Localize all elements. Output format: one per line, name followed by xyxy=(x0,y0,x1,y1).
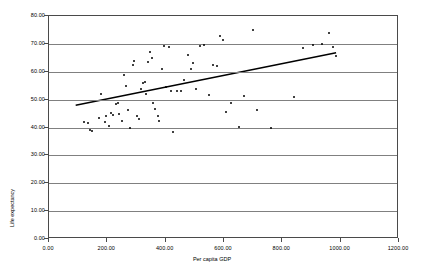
data-point xyxy=(270,127,272,129)
data-point xyxy=(112,114,114,116)
data-point xyxy=(121,120,123,122)
x-tick-label: 0.00 xyxy=(28,245,68,251)
y-tick-label: 60.00 xyxy=(1,68,45,74)
x-tick-label: 1200.00 xyxy=(378,245,418,251)
x-tick-mark xyxy=(223,238,224,242)
x-tick-label: 600.00 xyxy=(203,245,243,251)
x-tick-mark xyxy=(48,238,49,242)
chart-container: 0.0010.0020.0030.0040.0050.0060.0070.008… xyxy=(0,0,424,274)
data-point xyxy=(180,90,182,92)
x-tick-label: 800.00 xyxy=(261,245,301,251)
data-point xyxy=(168,46,170,48)
data-point xyxy=(302,47,304,49)
gridline xyxy=(49,72,397,73)
data-point xyxy=(321,43,323,45)
data-point xyxy=(83,121,85,123)
data-point xyxy=(203,44,205,46)
data-point xyxy=(163,45,165,47)
gridline xyxy=(49,183,397,184)
data-point xyxy=(117,102,119,104)
y-tick-mark xyxy=(44,15,48,16)
y-tick-label: 80.00 xyxy=(1,12,45,18)
gridline xyxy=(49,128,397,129)
data-point xyxy=(104,121,106,123)
data-point xyxy=(157,115,159,117)
data-point xyxy=(161,68,163,70)
plot-area xyxy=(48,15,398,238)
data-point xyxy=(170,90,172,92)
x-tick-label: 1000.00 xyxy=(320,245,360,251)
y-tick-mark xyxy=(44,99,48,100)
x-tick-label: 200.00 xyxy=(86,245,126,251)
data-point xyxy=(199,45,201,47)
x-axis-title: Per capita GDP xyxy=(0,256,424,263)
y-tick-mark xyxy=(44,71,48,72)
data-point xyxy=(222,39,224,41)
y-tick-mark xyxy=(44,154,48,155)
gridline xyxy=(49,211,397,212)
data-point xyxy=(129,127,131,129)
x-tick-label: 400.00 xyxy=(145,245,185,251)
data-point xyxy=(190,68,192,70)
y-tick-mark xyxy=(44,43,48,44)
data-point xyxy=(151,57,153,59)
y-tick-mark xyxy=(44,210,48,211)
y-tick-label: 70.00 xyxy=(1,40,45,46)
gridline xyxy=(49,44,397,45)
data-point xyxy=(136,115,138,117)
y-tick-label: 0.00 xyxy=(1,235,45,241)
x-tick-mark xyxy=(281,238,282,242)
y-tick-label: 10.00 xyxy=(1,207,45,213)
data-point xyxy=(172,131,174,133)
data-point xyxy=(138,118,140,120)
y-tick-mark xyxy=(44,182,48,183)
data-point xyxy=(208,94,210,96)
data-point xyxy=(140,88,142,90)
y-tick-mark xyxy=(44,127,48,128)
data-point xyxy=(293,96,295,98)
data-point xyxy=(216,65,218,67)
gridline xyxy=(49,100,397,101)
x-axis-ticks: 0.00200.00400.00600.00800.001000.001200.… xyxy=(0,243,424,255)
data-point xyxy=(108,125,110,127)
data-point xyxy=(212,64,214,66)
data-point xyxy=(219,35,221,37)
data-point xyxy=(256,109,258,111)
data-point xyxy=(238,126,240,128)
x-tick-mark xyxy=(398,238,399,242)
data-point xyxy=(187,54,189,56)
gridline xyxy=(49,155,397,156)
y-tick-label: 20.00 xyxy=(1,179,45,185)
x-tick-mark xyxy=(106,238,107,242)
x-tick-mark xyxy=(340,238,341,242)
trendline xyxy=(49,16,397,237)
x-tick-mark xyxy=(165,238,166,242)
y-axis-title: Life expectancy xyxy=(2,90,16,160)
data-point xyxy=(183,79,185,81)
